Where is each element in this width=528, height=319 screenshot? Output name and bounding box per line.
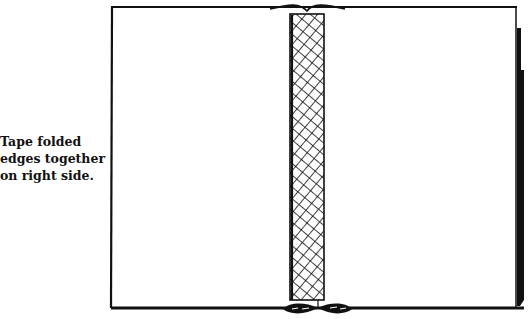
tape-bottom-knot-icon [283, 300, 352, 313]
folded-edge [517, 28, 524, 306]
tape-strip [290, 14, 324, 300]
taped-fabric-diagram [0, 0, 528, 319]
